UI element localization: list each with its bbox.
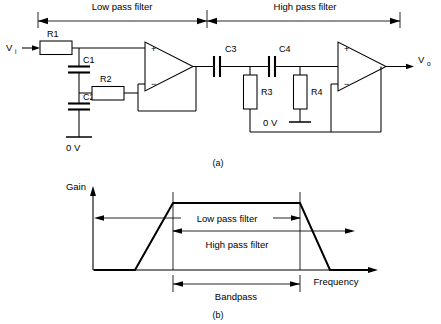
r2-body: [92, 87, 124, 101]
bandpass-filter-figure: Low pass filter High pass filter V i R1 …: [0, 0, 441, 324]
opamp-2-plus-sign: +: [344, 44, 349, 54]
label-low-pass-filter-top: Low pass filter: [92, 1, 153, 12]
chart-label-low-pass-filter: Low pass filter: [197, 213, 258, 224]
label-output-main: V: [418, 54, 425, 65]
chart-annotation-high-pass: [172, 228, 355, 234]
opamp-1-plus-sign: +: [151, 44, 156, 54]
y-axis-arrowhead: [90, 186, 96, 196]
chart-label-bandpass: Bandpass: [215, 291, 258, 302]
low-pass-annot-arrow-left: [94, 215, 104, 221]
bandpass-arrow-left: [173, 281, 183, 287]
bandpass-arrow-right: [290, 281, 300, 287]
label-c1: C1: [83, 55, 95, 65]
high-pass-annot-arrow-right: [345, 228, 355, 234]
component-r4: [289, 67, 311, 123]
chart-bandpass-dimension: [173, 275, 300, 292]
dim-arrowhead-high-left: [207, 18, 217, 24]
label-output-subscript: o: [427, 60, 431, 67]
label-input-main: V: [6, 42, 13, 53]
r1-body: [40, 41, 72, 55]
figure-container: Low pass filter High pass filter V i R1 …: [0, 0, 441, 324]
dim-arrowhead-high-right: [390, 18, 400, 24]
component-c4: [250, 56, 338, 77]
component-r1: [40, 41, 110, 55]
opamp-1: [110, 42, 214, 91]
label-ground-left: 0 V: [66, 142, 81, 153]
caption-figure-b: (b): [213, 310, 224, 320]
chart-x-axis-label: Frequency: [314, 276, 359, 287]
label-r2: R2: [100, 74, 112, 84]
opamp-1-minus-sign: −: [151, 79, 156, 89]
r4-body: [294, 75, 308, 109]
component-c1: [68, 67, 90, 94]
dim-arrowhead-low-right: [197, 18, 207, 24]
opamp-2-minus-sign: −: [344, 79, 349, 89]
component-c3: [214, 56, 250, 77]
chart-y-axis: [90, 186, 96, 270]
label-c3: C3: [225, 44, 237, 54]
chart-y-axis-label: Gain: [66, 181, 86, 192]
label-r3: R3: [261, 87, 273, 97]
high-pass-annot-arrow-left: [172, 228, 182, 234]
label-r4: R4: [311, 87, 323, 97]
caption-figure-a: (a): [213, 158, 224, 168]
label-input-subscript: i: [15, 48, 16, 55]
section-dimension-bar: [38, 10, 400, 28]
output-arrowhead: [406, 64, 414, 70]
opamp-2: [338, 42, 414, 91]
label-c4: C4: [279, 44, 291, 54]
input-port: [22, 45, 40, 51]
label-ground-right: 0 V: [263, 117, 278, 128]
input-arrowhead: [32, 45, 40, 51]
label-r1: R1: [47, 29, 59, 39]
chart-label-high-pass-filter: High pass filter: [206, 239, 269, 250]
label-high-pass-filter-top: High pass filter: [274, 1, 337, 12]
dim-arrowhead-low-left: [38, 18, 48, 24]
r3-body: [244, 75, 258, 109]
low-pass-annot-arrow-right: [291, 215, 301, 221]
